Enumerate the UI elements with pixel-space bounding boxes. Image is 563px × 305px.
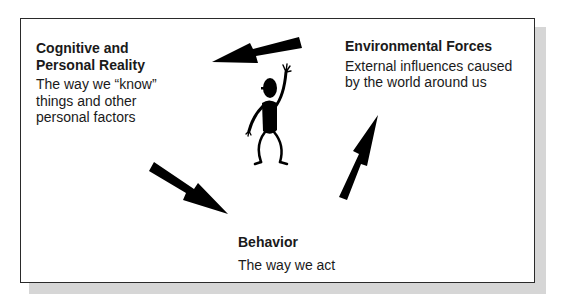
node-description: External influences caused by the world … bbox=[345, 58, 525, 91]
node-cognitive-personal-reality: Cognitive and Personal Reality The way w… bbox=[36, 40, 176, 126]
node-description: The way we act bbox=[238, 257, 378, 274]
node-title: Cognitive and Personal Reality bbox=[36, 40, 176, 73]
node-description: The way we “know” things and other perso… bbox=[36, 76, 176, 126]
node-title: Environmental Forces bbox=[345, 38, 525, 55]
node-environmental-forces: Environmental Forces External influences… bbox=[345, 38, 525, 91]
node-title: Behavior bbox=[238, 234, 378, 251]
node-behavior: Behavior The way we act bbox=[238, 234, 378, 273]
